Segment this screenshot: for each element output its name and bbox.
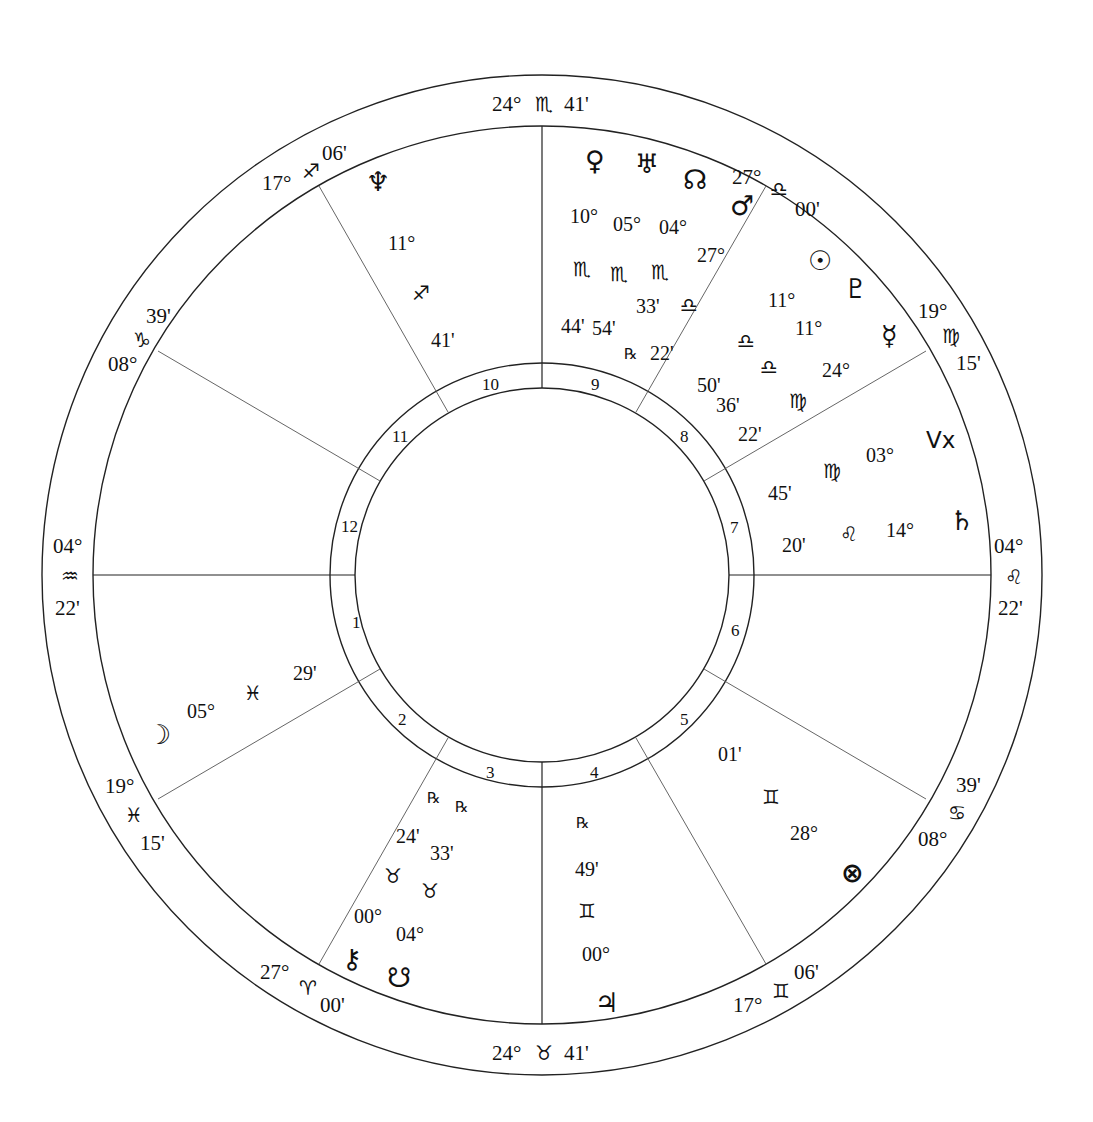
house-ring-inner (355, 388, 729, 762)
sagittarius-icon: ♐ (412, 281, 430, 305)
c5-degree: 17° (733, 993, 762, 1017)
libra-icon: ♎ (760, 355, 778, 379)
uranus-degree: 05° (613, 213, 641, 235)
retrograde-icon: ℞ (576, 814, 589, 832)
retrograde-icon: ℞ (624, 345, 637, 363)
leo-icon: ♌ (1005, 565, 1023, 589)
chiron-minutes: 24' (396, 825, 420, 847)
neptune-icon: ♆ (366, 166, 390, 197)
gemini-icon: ♊ (762, 785, 780, 809)
c6-degree: 08° (918, 827, 947, 851)
node-minutes: 33' (636, 295, 660, 317)
fortune-degree: 28° (790, 822, 818, 844)
libra-icon: ♎ (680, 293, 698, 317)
asc-degree: 04° (53, 534, 82, 558)
vertex-icon: Vx (926, 427, 955, 453)
scorpio-icon: ♏ (651, 260, 669, 284)
neptune-degree: 11° (388, 232, 415, 254)
retrograde-icon: ℞ (427, 789, 440, 807)
house-9: 9 (591, 375, 600, 394)
node-degree: 04° (659, 216, 687, 238)
uranus-icon: ♅ (635, 148, 659, 179)
house-numbers: 1 2 3 4 5 6 7 8 9 10 11 12 (341, 375, 740, 782)
mars-minutes: 22' (650, 342, 674, 364)
scorpio-icon: ♏ (573, 257, 591, 281)
leo-icon: ♌ (840, 522, 858, 546)
house-1: 1 (352, 613, 361, 632)
south-node-degree: 04° (396, 923, 424, 945)
c11-minutes: 06' (322, 141, 347, 165)
north-node-icon: ☊ (683, 164, 707, 195)
pisces-icon: ♓ (244, 681, 262, 705)
house-11: 11 (392, 427, 408, 446)
c8-minutes: 15' (956, 351, 981, 375)
dsc-minutes: 22' (998, 596, 1023, 620)
virgo-icon: ♍ (823, 459, 841, 483)
cancer-icon: ♋ (948, 801, 966, 825)
sun-icon: ☉ (808, 245, 832, 276)
aries-icon: ♈ (299, 976, 317, 1000)
c9-minutes: 00' (795, 197, 820, 221)
mars-degree: 27° (697, 244, 725, 266)
south-node-icon: ☋ (387, 962, 411, 993)
chiron-icon: ⚷ (342, 943, 362, 974)
venus-icon: ♀ (585, 145, 605, 176)
chiron-degree: 00° (354, 905, 382, 927)
c9-degree: 27° (732, 165, 761, 189)
c3-minutes: 00' (320, 993, 345, 1017)
south-node-minutes: 33' (430, 842, 454, 864)
moon-degree: 05° (187, 700, 215, 722)
chart-wheel: 1 2 3 4 5 6 7 8 9 10 11 12 24° ♏ 41' 24°… (0, 0, 1093, 1122)
mars-icon: ♂ (730, 190, 754, 221)
house-3: 3 (486, 763, 495, 782)
c5-minutes: 06' (794, 960, 819, 984)
ic-degree: 24° (492, 1041, 521, 1065)
house-2: 2 (398, 710, 407, 729)
c12-minutes: 39' (146, 304, 171, 328)
venus-degree: 10° (570, 205, 598, 227)
gemini-icon: ♊ (578, 899, 596, 923)
retrograde-icon: ℞ (455, 798, 468, 816)
c12-degree: 08° (108, 352, 137, 376)
vertex-degree: 03° (866, 444, 894, 466)
cusp-12-line (158, 351, 380, 481)
pluto-degree: 11° (795, 317, 822, 339)
cusp-5-line (636, 738, 766, 964)
uranus-minutes: 54' (592, 317, 616, 339)
c6-minutes: 39' (956, 773, 981, 797)
mc-degree: 24° (492, 92, 521, 116)
c8-degree: 19° (918, 299, 947, 323)
jupiter-minutes: 49' (575, 858, 599, 880)
house-10: 10 (482, 375, 499, 394)
scorpio-icon: ♏ (535, 92, 553, 116)
neptune-minutes: 41' (431, 329, 455, 351)
house-8: 8 (680, 427, 689, 446)
dsc-degree: 04° (994, 534, 1023, 558)
saturn-icon: ♄ (950, 505, 974, 536)
house-5: 5 (680, 710, 689, 729)
cusp-labels: 24° ♏ 41' 24° ♉ 41' 04° ♒ 22' 04° ♌ 22' … (53, 92, 1023, 1065)
vertex-minutes: 45' (768, 482, 792, 504)
sun-minutes: 50' (697, 374, 721, 396)
pluto-icon: ♇ (844, 273, 868, 304)
fortune-minutes: 01' (718, 743, 742, 765)
c3-degree: 27° (260, 960, 289, 984)
saturn-minutes: 20' (782, 534, 806, 556)
libra-icon: ♎ (737, 329, 755, 353)
mc-minutes: 41' (564, 92, 589, 116)
mercury-icon: ☿ (881, 320, 898, 351)
virgo-icon: ♍ (789, 389, 807, 413)
taurus-icon: ♉ (384, 864, 402, 888)
gemini-icon: ♊ (772, 979, 790, 1003)
venus-minutes: 44' (561, 315, 585, 337)
sagittarius-icon: ♐ (302, 159, 320, 183)
c2-minutes: 15' (140, 831, 165, 855)
moon-minutes: 29' (293, 662, 317, 684)
pisces-icon: ♓ (125, 803, 143, 827)
house-12: 12 (341, 517, 358, 536)
c11-degree: 17° (262, 171, 291, 195)
moon-icon: ☽ (147, 719, 171, 750)
ic-minutes: 41' (564, 1041, 589, 1065)
pluto-minutes: 36' (716, 394, 740, 416)
cusp-2-line (158, 669, 380, 799)
